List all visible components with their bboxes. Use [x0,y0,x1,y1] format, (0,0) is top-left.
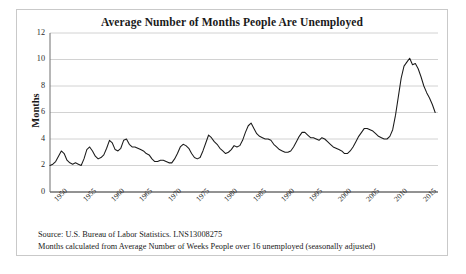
plot-area: Months 024681012 19501955196019651970197… [17,10,449,257]
y-axis-tick-label: 0 [23,187,45,196]
footnote-source: Source: U.S. Bureau of Labor Statistics.… [38,229,375,241]
footnote-method: Months calculated from Average Number of… [38,241,375,253]
line-chart-svg [17,10,449,257]
y-axis-tick-label: 6 [23,107,45,116]
y-axis-tick-label: 4 [23,134,45,143]
data-series-line [50,58,435,165]
y-axis-tick-label: 8 [23,81,45,90]
chart-frame: Average Number of Months People Are Unem… [16,9,448,256]
gridlines [50,33,438,192]
y-axis-tick-label: 2 [23,160,45,169]
y-axis-tick-label: 12 [23,28,45,37]
y-axis-tick-label: 10 [23,54,45,63]
chart-footnotes: Source: U.S. Bureau of Labor Statistics.… [38,229,375,252]
